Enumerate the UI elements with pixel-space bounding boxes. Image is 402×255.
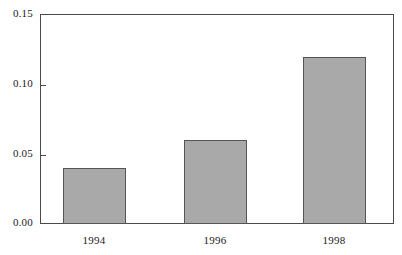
y-tick-label-1: 0.05	[13, 147, 33, 159]
x-tick-label-1: 1996	[204, 234, 227, 246]
y-tick-mark-1	[40, 155, 46, 156]
chart-page: 0.15 0.10 0.05 0.00 199419961998	[0, 0, 402, 255]
x-tick-label-2: 1998	[323, 234, 346, 246]
y-tick-label-0: 0.00	[13, 216, 33, 228]
y-axis: 0.15 0.10 0.05 0.00	[0, 0, 40, 255]
y-tick-label-2: 0.10	[13, 77, 33, 89]
y-tick-label-3: 0.15	[13, 7, 33, 19]
y-tick-mark-2	[40, 85, 46, 86]
bar-1996	[184, 140, 247, 224]
bar-1994	[63, 168, 126, 224]
x-tick-label-0: 1994	[83, 234, 106, 246]
bar-1998	[303, 57, 366, 224]
